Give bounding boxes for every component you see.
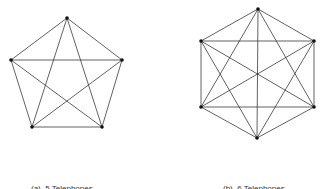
telephone-line [201,9,258,41]
telephone-line [201,107,257,138]
caption-a: (a) 5 Telephones 10 Lines [31,161,93,189]
telephone-node [255,136,259,140]
caption-b-telephones: (b) 6 Telephones [223,183,285,189]
telephone-node [120,58,124,62]
telephone-node [30,125,34,129]
telephone-line [257,41,314,138]
telephone-line [258,9,314,41]
telephone-node [312,105,316,109]
telephone-line [67,18,102,127]
telephone-line [11,60,102,127]
telephone-line [32,60,122,127]
caption-a-telephones: (a) 5 Telephones [31,183,93,189]
telephone-node [100,125,104,129]
telephone-line [11,60,32,127]
telephone-node [65,16,69,20]
telephone-node [9,58,13,62]
telephone-line [32,18,67,127]
telephone-line [258,9,314,107]
telephone-line [102,60,122,127]
pentagon-complete-graph [9,16,124,129]
telephone-node [256,7,260,11]
telephone-node [199,105,203,109]
hexagon-complete-graph [199,7,316,140]
telephone-line [11,18,67,60]
telephone-line [67,18,122,60]
telephone-line [257,107,314,138]
caption-b: (b) 6 Telephones 15 Lines [223,161,285,189]
telephone-node [199,39,203,43]
telephone-node [312,39,316,43]
telephone-line [201,41,257,138]
